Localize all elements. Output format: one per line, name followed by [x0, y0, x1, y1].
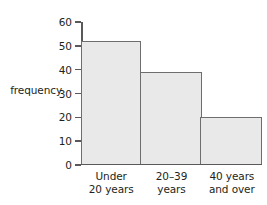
- x-axis-line: [81, 164, 262, 166]
- x-axis-category-label: Under20 years: [81, 170, 141, 196]
- y-axis-tick-label: 0: [48, 160, 72, 171]
- y-axis-tick-label: 50: [48, 40, 72, 51]
- y-axis-tick-label: 40: [48, 64, 72, 75]
- y-axis-tick-label: 30: [48, 88, 72, 99]
- x-axis-category-label: 40 yearsand over: [202, 170, 262, 196]
- bar: [81, 41, 141, 165]
- bar: [140, 72, 202, 165]
- y-axis-tick-label: 10: [48, 136, 72, 147]
- x-axis-category-label-line: 20–39: [141, 170, 201, 183]
- plot-area: [81, 22, 262, 165]
- bar: [200, 117, 262, 165]
- x-axis-category-label-line: years: [141, 183, 201, 196]
- frequency-bar-chart: frequency 0102030405060 Under20 years20–…: [0, 0, 267, 205]
- x-axis-category-label: 20–39years: [141, 170, 201, 196]
- x-axis-category-label-line: and over: [202, 183, 262, 196]
- y-axis-tick-label: 60: [48, 17, 72, 28]
- x-axis-category-label-line: 20 years: [81, 183, 141, 196]
- x-axis-category-label-line: Under: [81, 170, 141, 183]
- x-axis-category-label-line: 40 years: [202, 170, 262, 183]
- y-axis-tick-label: 20: [48, 112, 72, 123]
